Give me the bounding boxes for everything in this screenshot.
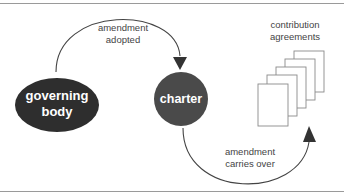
node-label-contribution-agreements: contribution agreements <box>255 19 335 43</box>
node-label-line: agreements <box>255 31 335 43</box>
edge-label-line: adopted <box>88 34 158 46</box>
document-stack-icon <box>258 51 324 126</box>
governing-body-label: governing body <box>15 88 99 120</box>
node-label-line: contribution <box>255 19 335 31</box>
edge-label-amendment-carries-over: amendment carries over <box>210 146 290 170</box>
edge-label-line: amendment <box>210 146 290 158</box>
edge-label-amendment-adopted: amendment adopted <box>88 22 158 46</box>
edge-label-line: carries over <box>210 158 290 170</box>
arrowhead-up-icon <box>303 126 316 142</box>
edge-label-line: amendment <box>88 22 158 34</box>
charter-label: charter <box>154 91 208 107</box>
arrowhead-down-icon <box>173 57 187 70</box>
node-label-line: body <box>15 104 99 120</box>
node-label-line: governing <box>15 88 99 104</box>
